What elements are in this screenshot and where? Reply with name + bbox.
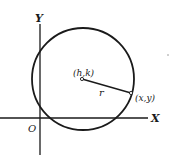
y-axis-label: Y <box>35 12 44 25</box>
radius-line <box>82 79 131 93</box>
origin-label: O <box>28 123 36 134</box>
radius-label: r <box>99 87 105 98</box>
point-label: (x,y) <box>135 93 156 103</box>
center-label: (h,k) <box>73 68 95 78</box>
x-axis-label: X <box>150 112 160 125</box>
circle-point <box>129 91 132 94</box>
circle-diagram: Y X O (h,k) (x,y) r <box>0 0 172 161</box>
